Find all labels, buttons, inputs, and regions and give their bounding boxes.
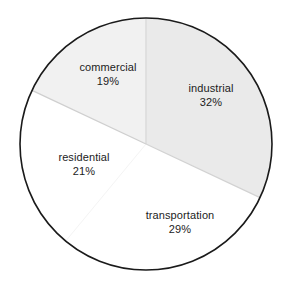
pie-label-transportation-name: transportation: [122, 209, 238, 223]
pie-chart-graphic: [0, 0, 284, 286]
pie-label-residential: residential 21%: [34, 151, 134, 178]
pie-label-industrial-value: 32%: [167, 96, 255, 110]
pie-label-residential-value: 21%: [34, 165, 134, 179]
pie-label-transportation-value: 29%: [122, 223, 238, 237]
pie-label-industrial-name: industrial: [167, 82, 255, 96]
pie-label-commercial-value: 19%: [58, 75, 158, 89]
pie-chart: commercial 19% industrial 32% residentia…: [0, 0, 284, 286]
pie-label-residential-name: residential: [34, 151, 134, 165]
pie-label-commercial-name: commercial: [58, 61, 158, 75]
pie-label-commercial: commercial 19%: [58, 61, 158, 88]
pie-label-transportation: transportation 29%: [122, 209, 238, 236]
pie-label-industrial: industrial 32%: [167, 82, 255, 109]
